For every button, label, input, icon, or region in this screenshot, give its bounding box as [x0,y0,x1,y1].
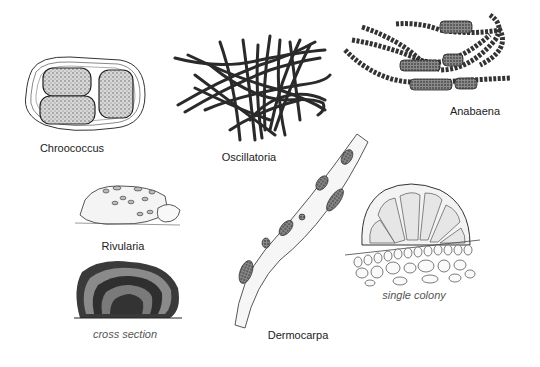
rivularia-illustration [75,186,180,225]
label-dermocarpa: Dermocarpa [268,329,329,341]
label-chroococcus: Chroococcus [40,142,104,154]
dermocarpa-illustration [235,134,368,328]
label-single-colony: single colony [382,289,446,301]
label-rivularia: Rivularia [102,240,145,252]
chroococcus-illustration [25,57,145,130]
label-anabaena: Anabaena [450,105,500,117]
oscillatoria-illustration [175,36,330,140]
anabaena-illustration [345,15,510,82]
rivularia-cross-section-illustration [74,261,182,318]
label-cross-section: cross section [93,328,157,340]
illustration-canvas [0,0,540,367]
label-oscillatoria: Oscillatoria [222,151,276,163]
dermocarpa-single-colony-illustration [345,184,480,286]
